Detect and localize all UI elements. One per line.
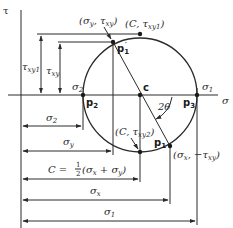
top-coord-label: (C, τxy1): [125, 18, 164, 31]
point-center: [138, 93, 142, 97]
tau-axis-label: τ: [3, 5, 9, 16]
center-label: c: [143, 82, 149, 93]
sigma1-dim-label: σ1: [104, 206, 115, 219]
sigma-x-dim-label: σx: [90, 185, 101, 198]
svg-text:C =: C =: [48, 164, 67, 175]
p2-label: p2: [86, 97, 98, 110]
sigma-y-dim-label: σy: [63, 136, 75, 149]
p1-coord-label: (σx, −τxy): [173, 149, 220, 162]
p3-stress-label: σ1: [202, 81, 213, 94]
center-formula-expr: (σx + σy): [82, 164, 126, 177]
p2-stress-label: σ2: [72, 81, 84, 94]
point-bottom: [138, 150, 142, 154]
point-p1-prime: [111, 40, 115, 44]
p1-prime-coord-label: (σy, τxy): [79, 15, 118, 28]
sigma-axis-label: σ: [222, 95, 230, 106]
point-p3: [195, 93, 199, 97]
angle-label: 2θ: [157, 101, 170, 112]
svg-text:1: 1: [76, 161, 80, 169]
tau-axis: τ: [3, 5, 21, 228]
mohrs-circle-diagram: τ σ τxy1 τxy σ2 σy C = 1 2 (σx + σy) σx …: [0, 0, 233, 228]
tau-xy1-label: τxy1: [22, 61, 40, 74]
p1-prime-leader: [104, 27, 111, 39]
sigma2-dim-label: σ2: [46, 112, 58, 125]
point-top: [138, 32, 142, 36]
p1-prime-label: p1′: [117, 41, 129, 56]
svg-text:2: 2: [76, 170, 80, 178]
center-formula-label: C = 1 2 (σx + σy): [48, 161, 126, 178]
tau-xy-label: τxy: [46, 65, 60, 78]
p3-label: p3: [183, 97, 195, 110]
bottom-leader: [131, 138, 138, 149]
point-p1: [168, 144, 172, 148]
bottom-coord-label: (C, τxy2): [115, 126, 154, 139]
